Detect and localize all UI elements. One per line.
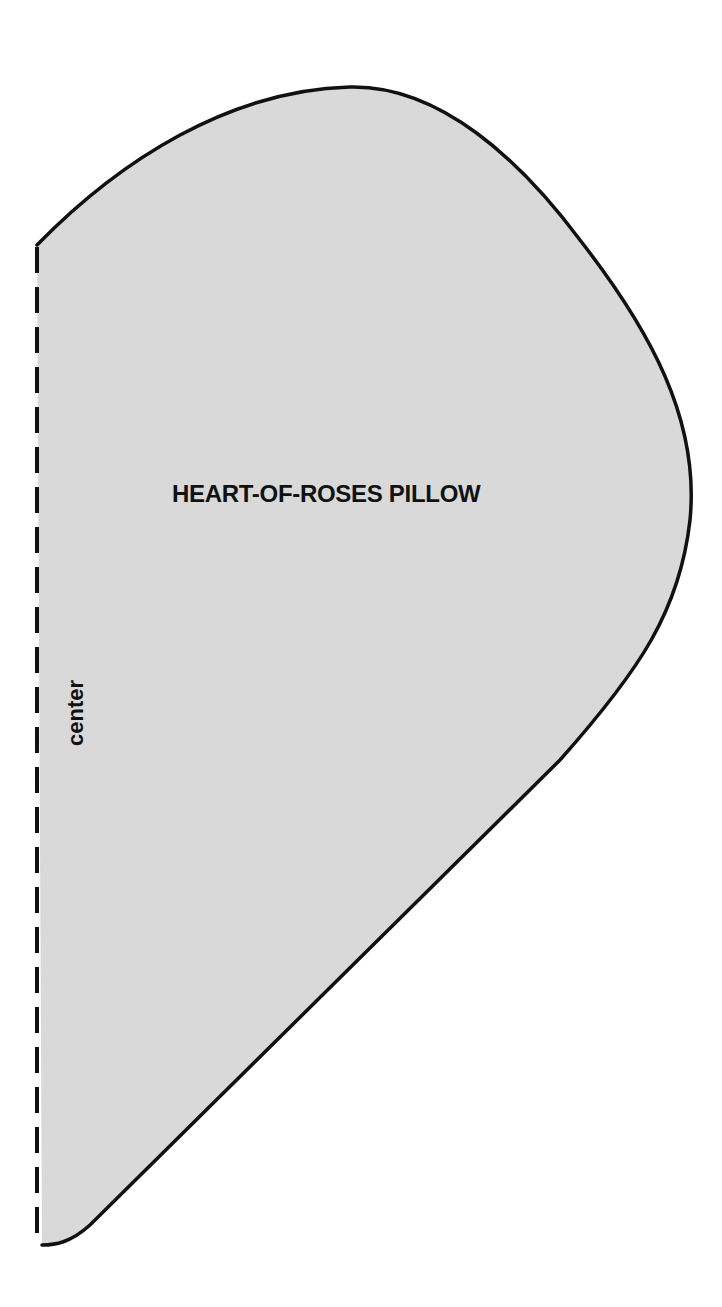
pattern-piece — [0, 0, 722, 1307]
fold-line-label: center — [63, 673, 89, 753]
pattern-title: HEART-OF-ROSES PILLOW — [172, 480, 480, 508]
pattern-outline — [37, 87, 691, 1245]
